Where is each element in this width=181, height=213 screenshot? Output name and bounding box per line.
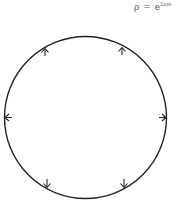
arrow-lower-right-icon (121, 179, 128, 188)
arrow-upper-right-icon (119, 48, 126, 56)
arrow-lower-left-icon (44, 179, 51, 188)
arrow-left-icon (5, 114, 12, 121)
arrow-right-icon (159, 114, 166, 121)
unit-circle (5, 37, 167, 199)
circle-diagram (0, 0, 181, 213)
